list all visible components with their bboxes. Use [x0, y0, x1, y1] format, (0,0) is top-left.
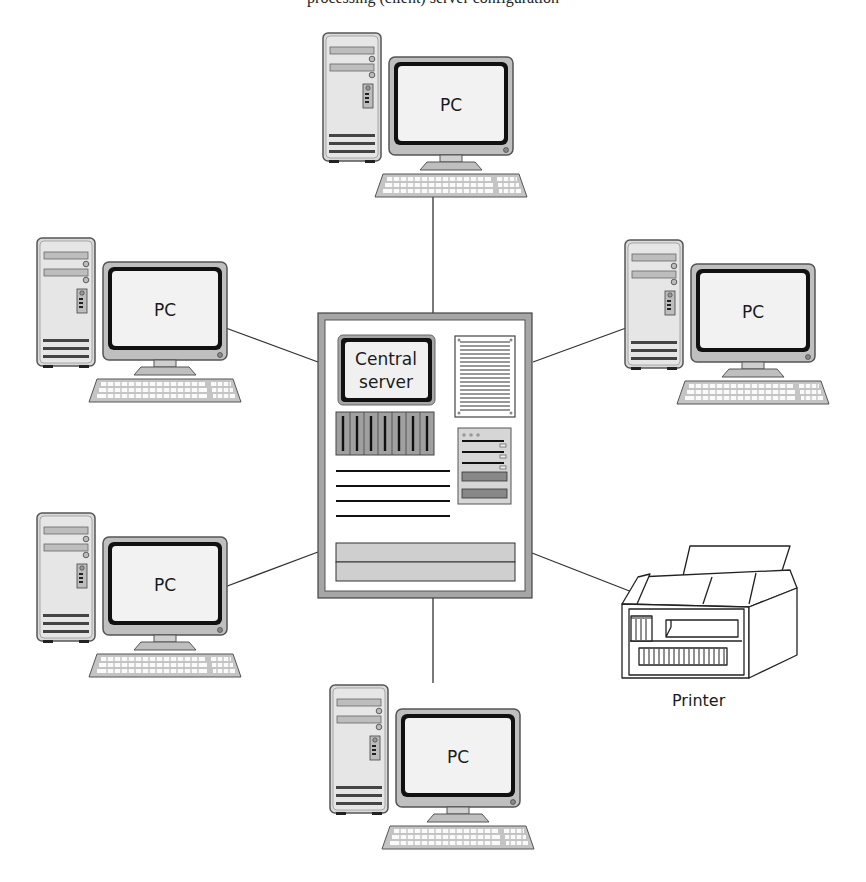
- pc-left-top-icon: PC: [37, 238, 241, 402]
- pc-right-top-icon: PC: [625, 240, 829, 404]
- pc-bottom-icon: PC: [330, 685, 534, 849]
- pc-top-icon: PC: [323, 33, 527, 197]
- pc-left-bottom-label: PC: [154, 575, 176, 595]
- pc-right-top-label: PC: [742, 302, 764, 322]
- edge-server-pc-left-bottom: [222, 552, 318, 588]
- central-server-icon: Central server: [318, 313, 532, 598]
- pc-top-label: PC: [440, 95, 462, 115]
- server-label-line2: server: [359, 372, 413, 392]
- pc-bottom-label: PC: [447, 747, 469, 767]
- pc-left-bottom-icon: PC: [37, 513, 241, 677]
- network-diagram: Central server: [0, 0, 866, 882]
- edge-server-pc-right-top: [533, 328, 626, 362]
- printer-label: Printer: [672, 691, 726, 710]
- server-label-line1: Central: [355, 349, 417, 369]
- printer-icon: [622, 546, 797, 678]
- edge-server-printer: [532, 553, 632, 592]
- pc-left-top-label: PC: [154, 300, 176, 320]
- edge-server-pc-left-top: [223, 327, 318, 362]
